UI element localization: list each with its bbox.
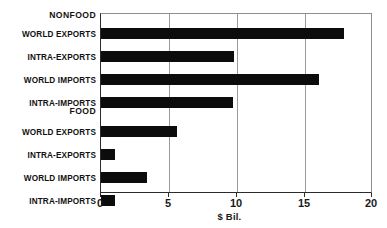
bar-label: INTRA-EXPORTS bbox=[5, 52, 96, 62]
bar-row-food-world-exports: WORLD EXPORTS bbox=[0, 123, 387, 140]
bar-label: WORLD EXPORTS bbox=[5, 29, 96, 39]
bar-row-nonfood-world-exports: WORLD EXPORTS bbox=[0, 25, 387, 42]
bar-chart: NONFOOD FOOD WORLD EXPORTS INTRA-EXPORTS… bbox=[0, 0, 387, 228]
x-tick-label-10: 10 bbox=[230, 197, 242, 209]
x-tick-label-0: 0 bbox=[97, 197, 103, 209]
bar-label: INTRA-IMPORTS bbox=[5, 196, 96, 206]
bar-label: WORLD IMPORTS bbox=[5, 173, 96, 183]
bar-label: WORLD EXPORTS bbox=[5, 127, 96, 137]
x-axis-label: $ Bil. bbox=[0, 211, 387, 222]
bar-row-food-intra-exports: INTRA-EXPORTS bbox=[0, 146, 387, 163]
x-tick-label-15: 15 bbox=[298, 197, 310, 209]
bar-food-world-exports bbox=[101, 126, 177, 137]
bar-row-nonfood-world-imports: WORLD IMPORTS bbox=[0, 71, 387, 88]
bar-row-nonfood-intra-imports: INTRA-IMPORTS bbox=[0, 94, 387, 111]
bar-nonfood-world-exports bbox=[101, 28, 344, 39]
x-axis-label-text: $ Bil. bbox=[218, 211, 242, 222]
bar-label: WORLD IMPORTS bbox=[5, 75, 96, 85]
bar-row-nonfood-intra-exports: INTRA-EXPORTS bbox=[0, 48, 387, 65]
bar-food-intra-imports bbox=[101, 195, 115, 206]
bar-label: INTRA-EXPORTS bbox=[5, 150, 96, 160]
bar-row-food-world-imports: WORLD IMPORTS bbox=[0, 169, 387, 186]
x-tick-label-5: 5 bbox=[165, 197, 171, 209]
bar-rows: WORLD EXPORTS INTRA-EXPORTS WORLD IMPORT… bbox=[0, 13, 387, 193]
bar-label: INTRA-IMPORTS bbox=[5, 98, 96, 108]
bar-nonfood-intra-imports bbox=[101, 97, 233, 108]
bar-nonfood-intra-exports bbox=[101, 51, 234, 62]
bar-food-world-imports bbox=[101, 172, 147, 183]
bar-nonfood-world-imports bbox=[101, 74, 319, 85]
bar-row-food-intra-imports: INTRA-IMPORTS bbox=[0, 192, 387, 209]
x-tick-label-20: 20 bbox=[365, 197, 377, 209]
bar-food-intra-exports bbox=[101, 149, 115, 160]
